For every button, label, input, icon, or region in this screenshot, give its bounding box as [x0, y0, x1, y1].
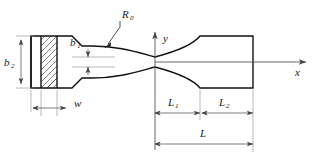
dimension-L-label: L — [199, 127, 206, 139]
dimension-w-label: w — [74, 97, 82, 109]
diagram-canvas: x y R 0 b 2 b 1 — [0, 0, 313, 160]
dimension-b1-label-sub: 1 — [77, 42, 81, 50]
dimension-b1: b 1 — [70, 36, 115, 75]
dimension-L-total: L — [155, 120, 253, 152]
dimension-L2: L 2 — [202, 90, 253, 120]
axis-y-label: y — [162, 32, 168, 44]
dimension-L2-label: L — [218, 96, 225, 108]
dimension-L1-label-sub: 1 — [175, 102, 179, 110]
dimension-w: w — [31, 90, 82, 116]
dimension-L1: L 1 — [155, 90, 200, 120]
radius-callout: R 0 — [104, 8, 134, 48]
dimension-b2: b 2 — [4, 36, 34, 88]
radius-label: R — [121, 8, 129, 20]
dimension-L1-label: L — [167, 96, 174, 108]
dimension-b2-label: b — [4, 56, 10, 68]
axis-x-label: x — [294, 66, 300, 78]
specimen-geometry-diagram: x y R 0 b 2 b 1 — [0, 0, 313, 160]
radius-label-sub: 0 — [130, 14, 134, 22]
dimension-b2-label-sub: 2 — [11, 62, 15, 70]
dimension-L2-label-sub: 2 — [226, 102, 230, 110]
dimension-b1-label: b — [70, 36, 76, 48]
